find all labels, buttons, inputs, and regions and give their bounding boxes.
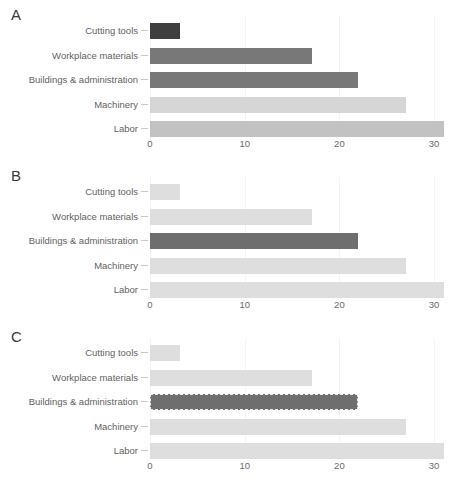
axis-tick-mark — [141, 55, 148, 56]
category-label: Labor — [0, 119, 138, 139]
axis-tick-mark — [141, 401, 148, 402]
category-label: Cutting tools — [0, 182, 138, 202]
panel-b: BCutting toolsWorkplace materialsBuildin… — [0, 161, 470, 322]
bar-row: Cutting tools — [0, 21, 470, 41]
category-label: Buildings & administration — [0, 392, 138, 412]
bar-row: Cutting tools — [0, 343, 470, 363]
bar-row: Machinery — [0, 95, 470, 115]
bar — [150, 97, 406, 113]
panel-a: ACutting toolsWorkplace materialsBuildin… — [0, 0, 470, 161]
axis-tick-mark — [141, 352, 148, 353]
x-axis-tick-label: 20 — [334, 460, 345, 472]
category-label: Buildings & administration — [0, 231, 138, 251]
bar — [150, 72, 358, 88]
bar — [150, 443, 444, 459]
x-axis-tick-label: 30 — [429, 460, 440, 472]
category-label: Cutting tools — [0, 343, 138, 363]
axis-tick-mark — [141, 104, 148, 105]
axis-tick-mark — [141, 79, 148, 80]
bar-row: Buildings & administration — [0, 231, 470, 251]
axis-tick-mark — [141, 216, 148, 217]
bar — [150, 370, 312, 386]
bar — [150, 419, 406, 435]
bar-highlighted — [150, 394, 358, 410]
axis-tick-mark — [141, 426, 148, 427]
x-axis: 0102030 — [0, 460, 470, 476]
bar-row: Workplace materials — [0, 207, 470, 227]
bar-row: Labor — [0, 280, 470, 300]
category-label: Machinery — [0, 256, 138, 276]
x-axis-tick-label: 20 — [334, 138, 345, 150]
axis-tick-mark — [141, 377, 148, 378]
category-label: Machinery — [0, 95, 138, 115]
x-axis-tick-label: 0 — [147, 138, 152, 150]
category-label: Buildings & administration — [0, 70, 138, 90]
bar — [150, 121, 444, 137]
bar-row: Labor — [0, 119, 470, 139]
axis-tick-mark — [141, 265, 148, 266]
x-axis: 0102030 — [0, 138, 470, 154]
bar — [150, 345, 180, 361]
x-axis-tick-label: 0 — [147, 460, 152, 472]
x-axis-tick-label: 0 — [147, 299, 152, 311]
bar-row: Cutting tools — [0, 182, 470, 202]
x-axis-tick-label: 30 — [429, 138, 440, 150]
x-axis-tick-label: 30 — [429, 299, 440, 311]
axis-tick-mark — [141, 289, 148, 290]
bar-row: Workplace materials — [0, 368, 470, 388]
category-label: Labor — [0, 441, 138, 461]
bar — [150, 48, 312, 64]
bar — [150, 184, 180, 200]
bar — [150, 282, 444, 298]
x-axis-tick-label: 10 — [239, 460, 250, 472]
axis-tick-mark — [141, 240, 148, 241]
bar — [150, 209, 312, 225]
category-label: Workplace materials — [0, 368, 138, 388]
panel-c: CCutting toolsWorkplace materialsBuildin… — [0, 322, 470, 483]
bar-row: Labor — [0, 441, 470, 461]
x-axis-tick-label: 10 — [239, 299, 250, 311]
bar-row: Buildings & administration — [0, 392, 470, 412]
bar-row: Machinery — [0, 256, 470, 276]
bar — [150, 23, 180, 39]
bar-row: Machinery — [0, 417, 470, 437]
axis-tick-mark — [141, 191, 148, 192]
x-axis-tick-label: 20 — [334, 299, 345, 311]
x-axis-tick-label: 10 — [239, 138, 250, 150]
category-label: Machinery — [0, 417, 138, 437]
axis-tick-mark — [141, 450, 148, 451]
category-label: Cutting tools — [0, 21, 138, 41]
bar-highlighted — [150, 233, 358, 249]
bar — [150, 258, 406, 274]
x-axis: 0102030 — [0, 299, 470, 315]
axis-tick-mark — [141, 30, 148, 31]
bar-row: Buildings & administration — [0, 70, 470, 90]
axis-tick-mark — [141, 128, 148, 129]
category-label: Labor — [0, 280, 138, 300]
category-label: Workplace materials — [0, 46, 138, 66]
category-label: Workplace materials — [0, 207, 138, 227]
bar-row: Workplace materials — [0, 46, 470, 66]
